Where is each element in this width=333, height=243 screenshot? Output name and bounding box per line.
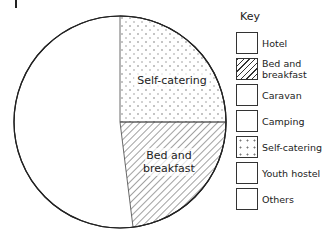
legend: Hotel Bed and breakfast Caravan Camping … xyxy=(236,30,322,212)
swatch-blank-icon xyxy=(236,188,258,210)
slice-self-catering xyxy=(120,16,226,122)
pie-chart: Self-catering Bed and breakfast xyxy=(0,0,230,243)
legend-item-bed-and-breakfast: Bed and breakfast xyxy=(236,56,322,82)
swatch-dots-icon xyxy=(236,136,258,158)
legend-item-hotel: Hotel xyxy=(236,30,322,56)
legend-title: Key xyxy=(240,10,260,23)
label-bnb-line2: breakfast xyxy=(143,162,195,175)
swatch-blank-icon xyxy=(236,84,258,106)
label-bnb-line1: Bed and xyxy=(146,149,192,162)
legend-item-camping: Camping xyxy=(236,108,322,134)
legend-item-caravan: Caravan xyxy=(236,82,322,108)
swatch-blank-icon xyxy=(236,162,258,184)
swatch-blank-icon xyxy=(236,110,258,132)
swatch-hatch-icon xyxy=(236,58,258,80)
legend-item-others: Others xyxy=(236,186,322,212)
legend-item-self-catering: Self-catering xyxy=(236,134,322,160)
label-self-catering: Self-catering xyxy=(137,74,206,87)
swatch-blank-icon xyxy=(236,32,258,54)
legend-item-youth-hostel: Youth hostel xyxy=(236,160,322,186)
